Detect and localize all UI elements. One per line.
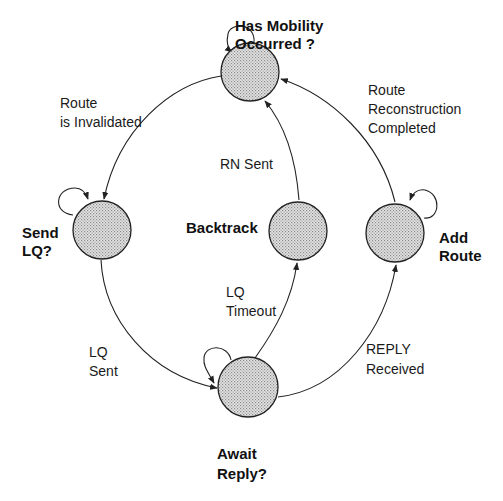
- transition-label-route-reconstruction: Route Reconstruction Completed: [368, 82, 465, 136]
- state-label-has-mobility: Has Mobility Occurred ?: [235, 17, 328, 52]
- edge-route-invalidated: [104, 76, 221, 199]
- edge-lq-sent: [101, 260, 217, 388]
- state-diagram: Has Mobility Occurred ? Send LQ? Backtra…: [0, 0, 503, 501]
- edge-reply-received: [278, 265, 396, 397]
- state-await-reply: [218, 357, 278, 417]
- state-send-lq: [73, 201, 131, 259]
- transition-label-reply-received: REPLY Received: [366, 341, 424, 377]
- transition-label-route-invalidated: Route is Invalidated: [60, 95, 142, 130]
- state-label-await-reply: Await Reply?: [217, 445, 267, 482]
- transition-label-rn-sent: RN Sent: [220, 156, 273, 172]
- state-backtrack: [269, 202, 327, 260]
- state-label-add-route: Add Route: [439, 229, 482, 264]
- edge-rn-sent: [265, 101, 299, 200]
- state-label-send-lq: Send LQ?: [22, 224, 63, 259]
- transition-label-lq-sent: LQ Sent: [89, 344, 118, 379]
- state-label-backtrack: Backtrack: [186, 219, 258, 236]
- state-add-route: [366, 204, 424, 262]
- transition-label-lq-timeout: LQ Timeout: [226, 284, 276, 319]
